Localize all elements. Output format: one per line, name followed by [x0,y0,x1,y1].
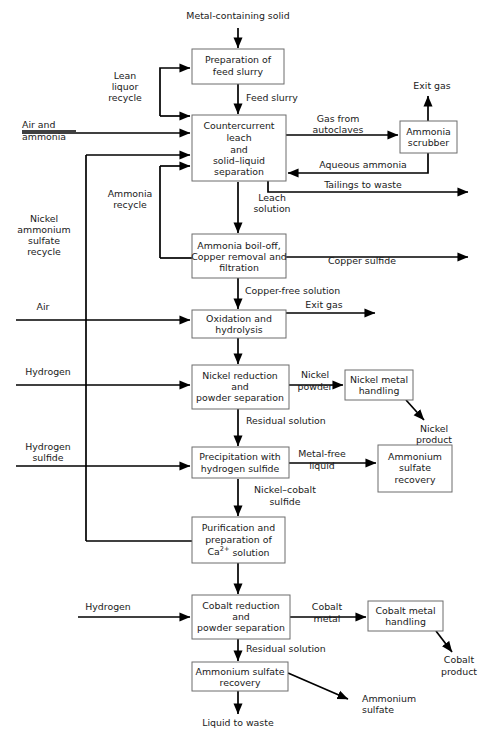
label-ni-am-sulfate-recycle-4: recycle [27,246,61,257]
label-cobalt-product-1: Cobalt [444,654,475,665]
label-air-and-ammonia-1: Air and [22,119,56,130]
label-metal-free-1: Metal-free [298,448,346,459]
svg-text:Preparation of: Preparation of [205,54,272,65]
label-lean-liquor-2: liquor [112,81,139,92]
label-ni-am-sulfate-recycle-3: sulfate [28,235,60,246]
label-leach-solution-2: solution [253,203,290,214]
process-box-countercurrent-leach[interactable]: Countercurrent leach and solid–liquid se… [192,115,286,181]
label-nickel-cobalt-sulfide-1: Nickel–cobalt [254,484,316,495]
svg-text:Nickel reduction: Nickel reduction [202,370,278,381]
label-ni-am-sulfate-recycle-1: Nickel [30,213,58,224]
label-residual-solution-nickel: Residual solution [246,415,326,426]
label-metal-containing-solid: Metal-containing solid [186,10,289,21]
label-cobalt-product-2: product [441,666,477,677]
label-nickel-product-1: Nickel [420,423,448,434]
svg-text:hydrogen sulfide: hydrogen sulfide [201,463,280,474]
label-ni-am-sulfate-recycle-2: ammonium [17,224,70,235]
svg-text:filtration: filtration [219,262,259,273]
process-flowsheet-svg: Preparation of feed slurry Countercurren… [0,0,484,740]
process-box-cobalt-metal-handling[interactable]: Cobalt metal handling [368,601,443,631]
svg-text:separation: separation [214,166,264,177]
connector-lean-liquor-recycle [160,68,190,116]
label-cobalt-metal-1: Cobalt [312,601,343,612]
label-gas-from-autoclaves-2: autoclaves [313,124,364,135]
svg-text:feed slurry: feed slurry [213,66,264,77]
svg-text:and: and [231,381,249,392]
label-exit-gas-scrubber: Exit gas [413,80,450,91]
process-box-cobalt-reduction[interactable]: Cobalt reduction and powder separation [192,595,290,639]
ca-solution-label: Ca2+ solution [207,545,269,557]
connector-cobalt-product [436,631,452,652]
connector-nickel-product [406,400,424,420]
label-gas-from-autoclaves-1: Gas from [317,113,360,124]
label-copper-sulfide: Copper sulfide [328,255,396,266]
svg-text:Oxidation and: Oxidation and [206,313,272,324]
svg-text:Ammonia boil-off,: Ammonia boil-off, [197,240,280,251]
label-air: Air [37,301,50,312]
label-tailings-to-waste: Tailings to waste [323,179,402,190]
svg-text:sulfate: sulfate [399,462,431,473]
svg-text:and: and [232,611,250,622]
process-box-nickel-reduction[interactable]: Nickel reduction and powder separation [192,365,289,409]
label-cobalt-metal-2: metal [314,613,341,624]
label-exit-gas-oxidation: Exit gas [305,299,342,310]
svg-text:Nickel metal: Nickel metal [350,374,408,385]
svg-text:powder separation: powder separation [196,392,284,403]
process-box-nickel-metal-handling[interactable]: Nickel metal handling [345,370,413,400]
process-box-oxidation-and-hydrolysis[interactable]: Oxidation and hydrolysis [192,310,286,338]
process-box-preparation-of-feed-slurry[interactable]: Preparation of feed slurry [192,49,284,84]
label-nickel-cobalt-sulfide-2: sulfide [269,496,300,507]
svg-text:preparation of: preparation of [205,534,272,545]
label-nickel-powder-2: powder [298,381,333,392]
connector-ammonium-sulfate-out [288,673,348,699]
process-box-ammonia-scrubber[interactable]: Ammonia scrubber [400,121,457,153]
process-box-ammonia-boil-off[interactable]: Ammonia boil-off, Copper removal and fil… [191,234,287,278]
label-nickel-product-2: product [416,434,452,445]
svg-text:and: and [230,144,248,155]
label-copper-free-solution: Copper-free solution [245,285,340,296]
process-box-precipitation[interactable]: Precipitation with hydrogen sulfide [192,447,289,478]
svg-text:leach: leach [226,132,251,143]
svg-text:Purification and: Purification and [202,522,275,533]
label-hydrogen-sulfide-2: sulfide [32,452,63,463]
svg-text:Ammonia: Ammonia [406,126,451,137]
svg-text:powder separation: powder separation [197,622,285,633]
label-lean-liquor-1: Lean [114,70,137,81]
svg-text:scrubber: scrubber [408,137,450,148]
label-aqueous-ammonia: Aqueous ammonia [319,159,407,170]
label-liquid-to-waste: Liquid to waste [202,717,274,728]
label-hydrogen-cobalt: Hydrogen [85,601,131,612]
svg-text:solid–liquid: solid–liquid [213,155,265,166]
svg-text:Cobalt metal: Cobalt metal [375,605,435,616]
svg-text:Countercurrent: Countercurrent [203,120,274,131]
label-leach-solution-1: Leach [258,192,286,203]
label-ammonia-recycle-1: Ammonia [108,188,153,199]
label-feed-slurry: Feed slurry [246,92,298,103]
svg-text:Ammonium sulfate: Ammonium sulfate [196,666,285,677]
svg-text:handling: handling [385,616,426,627]
process-box-ammonium-sulfate-recovery-right[interactable]: Ammonium sulfate recovery [378,445,452,492]
label-ammonia-recycle-2: recycle [113,199,147,210]
svg-text:recovery: recovery [394,474,435,485]
label-hydrogen-sulfide-1: Hydrogen [25,441,71,452]
svg-text:Cobalt reduction: Cobalt reduction [202,600,280,611]
label-air-and-ammonia-2: ammonia [22,131,66,142]
label-ammonium-sulfate-2: sulfate [362,704,394,715]
process-box-purification[interactable]: Purification and preparation of Ca2+ sol… [192,517,285,563]
svg-text:Precipitation with: Precipitation with [199,451,281,462]
svg-text:Ammonium: Ammonium [388,451,442,462]
label-nickel-powder-1: Nickel [301,369,329,380]
label-metal-free-2: liquid [309,460,335,471]
label-lean-liquor-3: recycle [108,92,142,103]
svg-text:handling: handling [359,385,400,396]
label-ammonium-sulfate-1: Ammonium [362,693,416,704]
svg-text:recovery: recovery [219,677,260,688]
svg-text:hydrolysis: hydrolysis [215,324,262,335]
svg-text:Copper removal and: Copper removal and [191,251,287,262]
label-hydrogen-nickel: Hydrogen [25,366,71,377]
flowsheet-diagram: Preparation of feed slurry Countercurren… [0,0,484,740]
label-residual-solution-cobalt: Residual solution [246,643,326,654]
process-box-ammonium-sulfate-recovery-bottom[interactable]: Ammonium sulfate recovery [192,662,288,691]
